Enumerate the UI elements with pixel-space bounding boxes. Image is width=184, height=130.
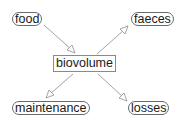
node-food-label: food bbox=[15, 12, 39, 26]
node-losses: losses bbox=[128, 101, 169, 115]
node-biovolume: biovolume bbox=[53, 55, 116, 72]
edge-biovolume-to-losses bbox=[98, 74, 127, 101]
node-losses-label: losses bbox=[131, 101, 166, 115]
edge-biovolume-to-maintenance bbox=[46, 74, 73, 98]
node-maintenance: maintenance bbox=[12, 101, 90, 115]
node-food: food bbox=[12, 12, 42, 26]
node-faeces-label: faeces bbox=[134, 12, 171, 26]
node-faeces: faeces bbox=[131, 12, 174, 26]
node-maintenance-label: maintenance bbox=[15, 101, 87, 115]
edge-biovolume-to-faeces bbox=[97, 26, 128, 54]
node-biovolume-label: biovolume bbox=[56, 56, 113, 70]
flow-diagram: food faeces biovolume maintenance losses bbox=[0, 0, 184, 130]
edge-food-to-biovolume bbox=[44, 25, 75, 53]
